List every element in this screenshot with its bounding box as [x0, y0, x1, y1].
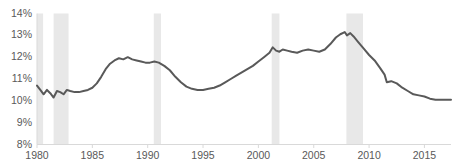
- x-axis-tick-label: 2000: [235, 150, 281, 161]
- x-axis-tick-label: 2005: [291, 150, 337, 161]
- series-line: [37, 32, 451, 100]
- recession-band: [154, 14, 161, 145]
- x-axis-tick-label: 1985: [69, 150, 115, 161]
- y-axis-tick-label: 9%: [0, 117, 32, 128]
- x-axis-tick-label: 1990: [125, 150, 171, 161]
- line-chart: 14%13%12%11%10%9%8% 19801985199019952000…: [0, 0, 454, 167]
- y-axis-tick-label: 12%: [0, 51, 32, 62]
- y-axis-tick-label: 13%: [0, 29, 32, 40]
- recession-bands: [37, 14, 363, 145]
- recession-band: [54, 14, 69, 145]
- chart-canvas: [0, 0, 454, 167]
- y-axis-tick-label: 10%: [0, 95, 32, 106]
- y-axis-tick-label: 8%: [0, 139, 32, 150]
- recession-band: [272, 14, 280, 145]
- recession-band: [37, 14, 43, 145]
- x-axis-tick-label: 2010: [346, 150, 392, 161]
- x-axis-tick-label: 1995: [180, 150, 226, 161]
- y-axis-tick-label: 11%: [0, 73, 32, 84]
- x-axis-tick-label: 1980: [14, 150, 60, 161]
- data-series: [37, 32, 451, 100]
- x-axis-tick-label: 2015: [401, 150, 447, 161]
- y-axis-tick-label: 14%: [0, 8, 32, 19]
